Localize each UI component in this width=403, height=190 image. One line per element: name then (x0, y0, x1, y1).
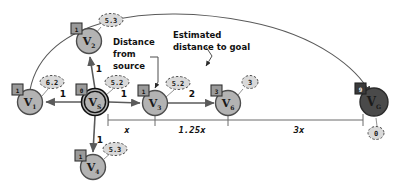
edge-vs-v3 (109, 102, 140, 103)
callout-estimated-distance-to-goal: Estimated distance to goal (173, 30, 250, 52)
edge-weight-vs-v2: 1 (96, 64, 102, 74)
badge-value-v3: 1 (142, 88, 146, 95)
edge-weight-vs-v3: 1 (121, 89, 127, 99)
heuristic-value-v6: 3 (248, 79, 252, 87)
badge-value-v2: 1 (75, 26, 79, 33)
badge-value-v1: 1 (16, 87, 20, 94)
edge-vs-v4 (93, 116, 95, 152)
callout-distance-from-source: Distance from source (113, 37, 155, 71)
heuristic-value-v1: 6.2 (46, 79, 59, 87)
badge-value-vg: 9 (359, 86, 363, 93)
heuristic-value-vg: 0 (374, 130, 378, 138)
heuristic-value-v2: 5.3 (105, 17, 118, 25)
badge-value-v4: 1 (79, 153, 83, 160)
diagram-canvas: V1 V2 VS V3 V4 V6 VG 1 1 0 1 1 3 9 6.2 5… (0, 0, 403, 190)
badge-value-vs: 0 (80, 87, 84, 94)
heuristic-value-v4: 5.3 (109, 146, 122, 154)
callout-line-2: distance to goal (173, 42, 250, 52)
edge-weight-v3-v6: 2 (189, 89, 195, 99)
heuristic-value-vs: 5.2 (111, 79, 124, 87)
heuristic-value-v3: 5.2 (172, 80, 185, 88)
edge-vs-v2 (90, 57, 95, 89)
callout-line-1: Distance (113, 37, 155, 47)
callout-line-3: source (113, 61, 145, 71)
measure-label-3x: 3x (293, 125, 305, 135)
measure-label-x: x (123, 125, 130, 135)
measure-bar (108, 114, 363, 126)
badge-value-v6: 3 (215, 88, 219, 95)
edge-weight-vs-v1: 1 (60, 89, 66, 99)
measure-label-1-25x: 1.25x (178, 125, 206, 135)
callout-line-1: Estimated (173, 30, 221, 40)
callout-leader-distance-from-source (150, 57, 158, 88)
edge-weight-vs-v4: 1 (97, 135, 103, 145)
diagram-svg: V1 V2 VS V3 V4 V6 VG 1 1 0 1 1 3 9 6.2 5… (0, 0, 403, 190)
callout-line-2: from (113, 49, 136, 59)
